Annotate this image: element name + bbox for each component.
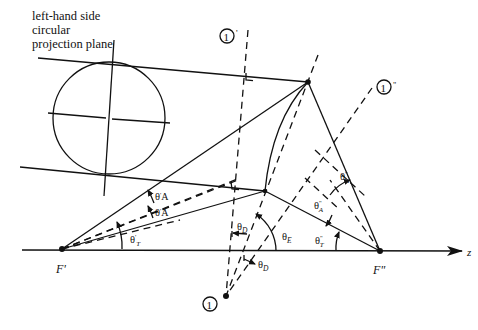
axis-1-double-prime <box>226 88 372 296</box>
title-line-3: projection plane <box>32 37 113 51</box>
svg-text:1: 1 <box>224 31 230 43</box>
label-theta-d-2: θD <box>258 259 269 273</box>
label-theta-a-dprime-2: θ"A <box>314 199 324 214</box>
svg-text:': ' <box>236 28 238 38</box>
svg-text:": " <box>393 81 396 90</box>
title-line-2: circular <box>32 23 71 37</box>
marker-1-prime: 1 ' <box>220 28 238 43</box>
lower-tangent-line <box>20 167 265 191</box>
svg-text:1: 1 <box>381 82 387 94</box>
label-theta-a-prime-1: θ'A <box>155 191 169 202</box>
arc-theta-t-dprime <box>336 232 339 251</box>
line-fdprime-top <box>308 82 380 251</box>
marker-1-double-prime: 1 " <box>377 80 396 94</box>
point-1 <box>223 293 229 299</box>
label-theta-a-dprime-1: θ"A <box>340 170 350 185</box>
upper-tangent-line <box>38 58 308 82</box>
label-theta-a-prime-2: θ'A <box>155 207 169 218</box>
label-f-double-prime: F" <box>372 263 386 277</box>
axis-1-prime <box>226 30 248 296</box>
title-line-1: left-hand side <box>32 9 101 23</box>
label-theta-t-dprime: θ"T <box>315 234 325 249</box>
arc-theta-a-prime-1 <box>148 206 153 218</box>
label-theta-e: θE <box>282 231 292 245</box>
axis-through-top <box>226 55 318 296</box>
z-axis <box>22 250 462 251</box>
label-f-prime: F' <box>55 262 66 276</box>
arc-theta-e <box>256 214 276 251</box>
projection-diagram: left-hand side circular projection plane… <box>0 0 478 330</box>
circular-projection-plane <box>48 40 170 196</box>
z-axis-label: z <box>466 246 472 258</box>
arc-theta-a-prime-2 <box>148 190 154 203</box>
angle-labels: θ'T θ'A θ'A θD θD θE θ"A θ"A θ"T <box>130 170 350 273</box>
marker-1: 1 <box>203 297 217 311</box>
horizontal-centerline-left <box>48 113 106 118</box>
horizontal-centerline-right <box>112 119 170 123</box>
svg-text:1: 1 <box>207 299 213 311</box>
arrow-theta-d-2 <box>244 259 255 264</box>
label-theta-t-prime: θ'T <box>130 233 141 248</box>
dashed-fdprime-1 <box>330 180 380 251</box>
line-fprime-top <box>62 82 308 249</box>
